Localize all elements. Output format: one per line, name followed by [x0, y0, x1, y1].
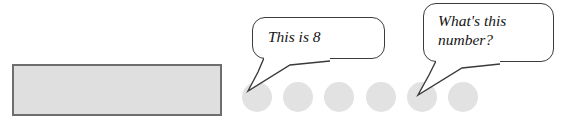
dot-1 [242, 82, 272, 112]
speech-bubble-whats-this-number: What's this number? [423, 3, 554, 62]
bubble-0-line-1: This is 8 [268, 28, 384, 47]
speech-bubble-this-is-8: This is 8 [252, 17, 385, 59]
bubble-1-line-1: What's this [438, 12, 553, 31]
dot-2 [283, 82, 313, 112]
illustration-canvas: This is 8 What's this number? [0, 0, 574, 135]
dot-row [242, 82, 562, 114]
grey-bar-rectangle [12, 64, 222, 116]
dot-4 [366, 82, 396, 112]
bubble-1-line-2: number? [438, 31, 553, 50]
dot-6 [448, 82, 478, 112]
dot-3 [324, 82, 354, 112]
dot-5 [407, 82, 437, 112]
